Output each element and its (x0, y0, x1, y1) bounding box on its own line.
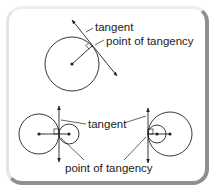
bl-tangent-leader (61, 120, 86, 124)
bl-small-center (67, 132, 70, 135)
tangent-diagram: tangent point of tangency tangent point … (0, 0, 219, 194)
br-small-center (155, 132, 158, 135)
br-large-center (168, 132, 171, 135)
bottom-right-figure (148, 108, 192, 163)
bottom-left-figure (19, 106, 79, 162)
br-point-leader (124, 137, 146, 160)
bottom-labels: tangent point of tangency (61, 116, 153, 174)
top-label-point-of-tangency: point of tangency (106, 35, 194, 47)
top-point-leader (95, 40, 104, 45)
bottom-label-point-of-tangency: point of tangency (65, 162, 153, 174)
bl-point-leader (61, 138, 84, 160)
bottom-label-tangent: tangent (88, 118, 127, 130)
bl-large-center (37, 132, 40, 135)
top-right-angle-marker (86, 43, 89, 49)
top-tangent-figure: tangent point of tangency (45, 20, 194, 91)
top-tangent-leader (86, 28, 93, 32)
top-label-tangent: tangent (95, 21, 134, 33)
br-tangent-leader (124, 116, 146, 123)
